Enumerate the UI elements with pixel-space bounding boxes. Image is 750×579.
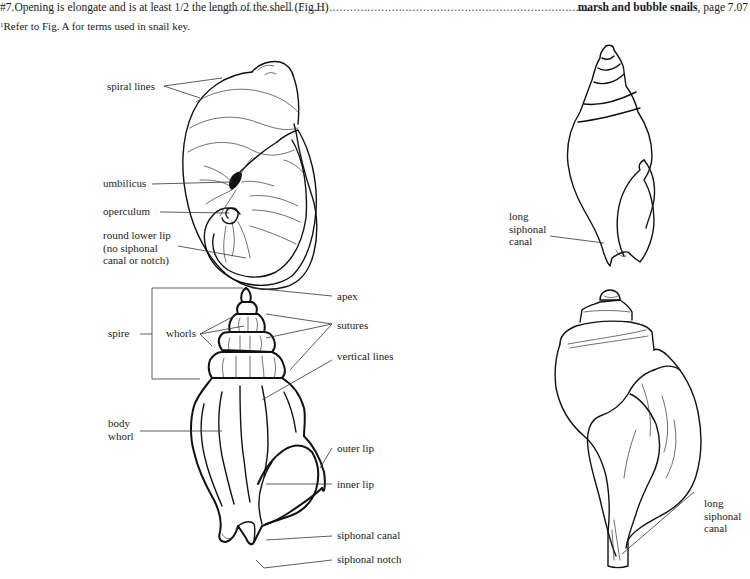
label-line: canal or notch) bbox=[103, 254, 171, 267]
label-vertical-lines: vertical lines bbox=[337, 350, 394, 363]
label-siphonal-notch: siphonal notch bbox=[337, 553, 401, 566]
label-round-lower-lip: round lower lip (no siphonal canal or no… bbox=[103, 229, 171, 267]
label-line: long bbox=[509, 210, 546, 223]
label-whorls: whorls bbox=[166, 327, 196, 340]
label-body-whorl: body whorl bbox=[108, 417, 134, 442]
label-line: body bbox=[108, 417, 134, 430]
label-line: canal bbox=[509, 235, 546, 248]
label-line: siphonal bbox=[509, 223, 546, 236]
label-long-siphonal-canal-whelk: long siphonal canal bbox=[704, 497, 741, 535]
label-apex: apex bbox=[337, 290, 358, 303]
label-inner-lip: inner lip bbox=[337, 478, 374, 491]
label-operculum: operculum bbox=[103, 205, 150, 218]
label-line: siphonal bbox=[704, 510, 741, 523]
label-line: round lower lip bbox=[103, 229, 171, 242]
label-line: whorl bbox=[108, 430, 134, 443]
round-shell-drawing bbox=[152, 61, 317, 289]
whelk-shell-drawing bbox=[555, 290, 701, 568]
label-outer-lip: outer lip bbox=[337, 442, 374, 455]
label-umbilicus: umbilicus bbox=[103, 177, 146, 190]
label-long-siphonal-canal-slender: long siphonal canal bbox=[509, 210, 546, 248]
label-line: (no siphonal bbox=[103, 242, 171, 255]
label-spire: spire bbox=[108, 327, 129, 340]
label-sutures: sutures bbox=[337, 319, 368, 332]
label-spiral-lines: spiral lines bbox=[107, 80, 155, 93]
label-siphonal-canal: siphonal canal bbox=[337, 529, 400, 542]
label-line: long bbox=[704, 497, 741, 510]
label-line: canal bbox=[704, 522, 741, 535]
slender-shell-drawing bbox=[550, 45, 655, 266]
